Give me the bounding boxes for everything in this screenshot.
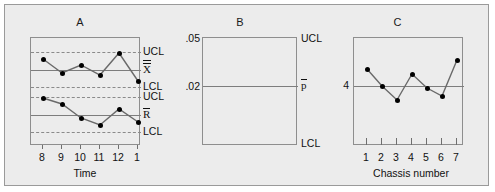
chart-c-series (354, 38, 464, 146)
chart-c-point (365, 67, 370, 72)
chart-a-r-point (117, 107, 122, 112)
chart-b-ucl-label: UCL (301, 33, 322, 44)
chart-a-xticklabel: 12 (108, 152, 128, 163)
chart-c-point (395, 98, 400, 103)
chart-a-r-point (60, 102, 65, 107)
chart-c-xtick (426, 138, 427, 145)
chart-c-center-value-label: 4 (331, 80, 349, 91)
chart-c-point (455, 58, 460, 63)
chart-a-xticklabel: 8 (32, 152, 52, 163)
chart-a-xticklabel: 10 (70, 152, 90, 163)
chart-panel-c: C 4 1 2 3 4 5 6 7 Chassis number (325, 5, 490, 185)
chart-c-xtick (441, 138, 442, 145)
chart-a-xbar-ucl-label: UCL (143, 46, 164, 57)
chart-c-xaxis-title: Chassis number (346, 167, 476, 179)
chart-c-title: C (335, 16, 460, 28)
chart-c-xtick (366, 138, 367, 145)
chart-a-xticklabel: 11 (89, 152, 109, 163)
chart-b-yticklabel-upper: .05 (176, 33, 200, 44)
chart-a-xticklabel: 1 (127, 152, 147, 163)
chart-c-point (440, 94, 445, 99)
chart-a-xtick (99, 145, 100, 149)
chart-b-pbar-center-line (203, 86, 298, 87)
chart-a-xtick (137, 145, 138, 149)
chart-a-xtick (61, 145, 62, 149)
chart-c-point (425, 86, 430, 91)
chart-a-xtick (42, 145, 43, 149)
x-double-bar-glyph: X (143, 64, 151, 75)
chart-a-xaxis-title: Time (30, 167, 140, 179)
chart-c-point (410, 72, 415, 77)
chart-a-r-lcl-label: LCL (143, 126, 162, 137)
chart-b-lcl-label: LCL (301, 138, 320, 149)
chart-panel-a: A (5, 5, 175, 185)
chart-c-xtick (381, 138, 382, 145)
figure-container: A (4, 4, 489, 186)
chart-a-xtick (118, 145, 119, 149)
chart-b-plot-area (202, 37, 297, 145)
chart-b-pbar-label: p (301, 80, 307, 91)
chart-c-xtick (396, 138, 397, 145)
chart-c-xtick (456, 138, 457, 145)
chart-a-xtick (80, 145, 81, 149)
chart-a-xbar-center-label: X (143, 64, 151, 75)
chart-b-title: B (185, 16, 295, 28)
chart-a-r-point (98, 123, 103, 128)
chart-a-r-series (31, 38, 141, 146)
chart-a-title: A (5, 16, 155, 28)
chart-a-r-point (79, 116, 84, 121)
chart-c-plot-area (353, 37, 463, 145)
chart-b-yticklabel-center: .02 (176, 81, 200, 92)
chart-c-xtick (411, 138, 412, 145)
chart-a-r-point (136, 120, 141, 125)
chart-a-r-point (41, 96, 46, 101)
chart-a-r-ucl-label: UCL (143, 91, 164, 102)
chart-c-point (380, 84, 385, 89)
chart-a-r-center-label: R (143, 109, 150, 120)
chart-a-plot-area (30, 37, 140, 145)
chart-panel-b: B .05 .02 UCL p LCL (175, 5, 325, 185)
r-bar-glyph: R (143, 109, 150, 120)
chart-c-xticklabel: 7 (446, 152, 466, 163)
chart-a-xticklabel: 9 (51, 152, 71, 163)
p-bar-glyph: p (301, 80, 307, 91)
